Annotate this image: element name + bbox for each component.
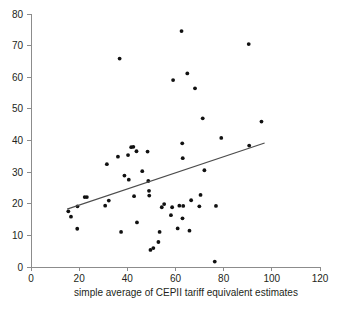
- data-point: [170, 205, 174, 209]
- x-tick-label: 100: [263, 273, 280, 284]
- trend-line: [67, 143, 264, 209]
- data-point: [151, 246, 155, 250]
- data-point: [123, 174, 127, 178]
- data-point: [189, 198, 193, 202]
- data-point: [131, 145, 135, 149]
- data-point: [162, 202, 166, 206]
- y-tick-label: 40: [12, 135, 24, 146]
- data-point: [158, 230, 162, 234]
- x-tick-label: 40: [122, 273, 134, 284]
- data-point: [180, 29, 184, 33]
- x-tick-label: 0: [28, 273, 34, 284]
- data-point: [85, 195, 89, 199]
- data-point: [181, 204, 185, 208]
- data-point: [203, 168, 207, 172]
- data-point: [213, 260, 217, 264]
- x-tick-label: 80: [218, 273, 230, 284]
- x-axis-ticks: 020406080100120: [28, 267, 329, 284]
- data-point: [176, 227, 180, 231]
- y-tick-label: 30: [12, 167, 24, 178]
- data-point: [197, 204, 201, 208]
- data-point: [260, 120, 264, 124]
- data-point: [188, 229, 192, 233]
- data-point: [107, 199, 111, 203]
- data-point: [219, 136, 223, 140]
- x-tick-label: 120: [312, 273, 329, 284]
- scatter-chart: 01020304050607080 020406080100120 simple…: [0, 0, 341, 310]
- plot-area: 01020304050607080 020406080100120 simple…: [0, 0, 341, 310]
- data-point: [147, 189, 151, 193]
- data-point: [146, 150, 150, 154]
- x-axis-title: simple average of CEPII tariff equivalen…: [74, 287, 298, 298]
- data-point: [126, 153, 130, 157]
- y-tick-label: 50: [12, 103, 24, 114]
- data-point: [75, 227, 79, 231]
- data-point: [177, 204, 181, 208]
- data-point: [185, 72, 189, 76]
- data-point: [103, 204, 107, 208]
- data-point: [66, 209, 70, 213]
- data-point: [201, 116, 205, 120]
- data-point: [69, 215, 73, 219]
- data-point: [247, 144, 251, 148]
- data-point: [160, 205, 164, 209]
- x-tick-label: 20: [74, 273, 86, 284]
- data-point: [135, 221, 139, 225]
- y-tick-label: 0: [17, 262, 23, 273]
- data-point: [247, 42, 251, 46]
- data-points: [66, 29, 263, 263]
- data-point: [132, 194, 136, 198]
- data-point: [119, 230, 123, 234]
- data-point: [181, 216, 185, 220]
- data-point: [135, 149, 139, 153]
- data-point: [181, 156, 185, 160]
- data-point: [140, 169, 144, 173]
- y-axis-ticks: 01020304050607080: [12, 9, 31, 273]
- y-tick-label: 10: [12, 230, 24, 241]
- data-point: [147, 194, 151, 198]
- y-tick-label: 60: [12, 72, 24, 83]
- data-point: [214, 204, 218, 208]
- data-point: [105, 162, 109, 166]
- data-point: [169, 213, 173, 217]
- data-point: [171, 78, 175, 82]
- y-tick-label: 80: [12, 9, 24, 20]
- data-point: [116, 155, 120, 159]
- data-point: [180, 141, 184, 145]
- data-point: [118, 57, 122, 61]
- data-point: [199, 193, 203, 197]
- data-point: [127, 178, 131, 182]
- data-point: [193, 86, 197, 90]
- y-tick-label: 70: [12, 40, 24, 51]
- data-point: [157, 240, 161, 244]
- y-tick-label: 20: [12, 198, 24, 209]
- x-tick-label: 60: [170, 273, 182, 284]
